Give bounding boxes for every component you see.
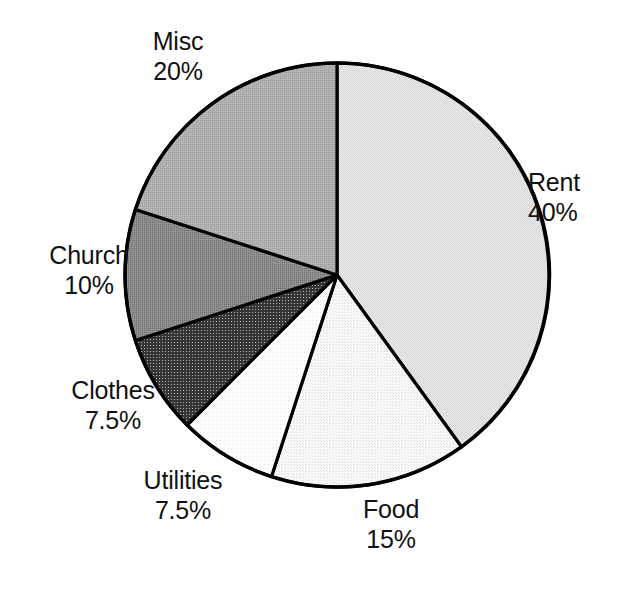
pie-label-clothes-name: Clothes: [48, 376, 178, 406]
pie-label-food-name: Food: [336, 495, 446, 525]
pie-label-misc-name: Misc: [118, 27, 238, 57]
pie-label-clothes-value: 7.5%: [48, 406, 178, 436]
pie-label-church-value: 10%: [24, 271, 154, 301]
pie-label-utilities-value: 7.5%: [118, 496, 248, 526]
pie-chart: Misc 20% Rent 40% Church 10% Clothes 7.5…: [0, 0, 624, 591]
pie-label-rent-name: Rent: [528, 168, 624, 198]
pie-label-church-name: Church: [24, 241, 154, 271]
pie-label-utilities: Utilities 7.5%: [118, 466, 248, 525]
pie-label-church: Church 10%: [24, 241, 154, 300]
pie-label-food-value: 15%: [336, 525, 446, 555]
pie-label-clothes: Clothes 7.5%: [48, 376, 178, 435]
pie-label-rent: Rent 40%: [528, 168, 624, 227]
pie-label-misc-value: 20%: [118, 57, 238, 87]
pie-label-utilities-name: Utilities: [118, 466, 248, 496]
pie-label-rent-value: 40%: [528, 198, 624, 228]
pie-label-misc: Misc 20%: [118, 27, 238, 86]
pie-label-food: Food 15%: [336, 495, 446, 554]
